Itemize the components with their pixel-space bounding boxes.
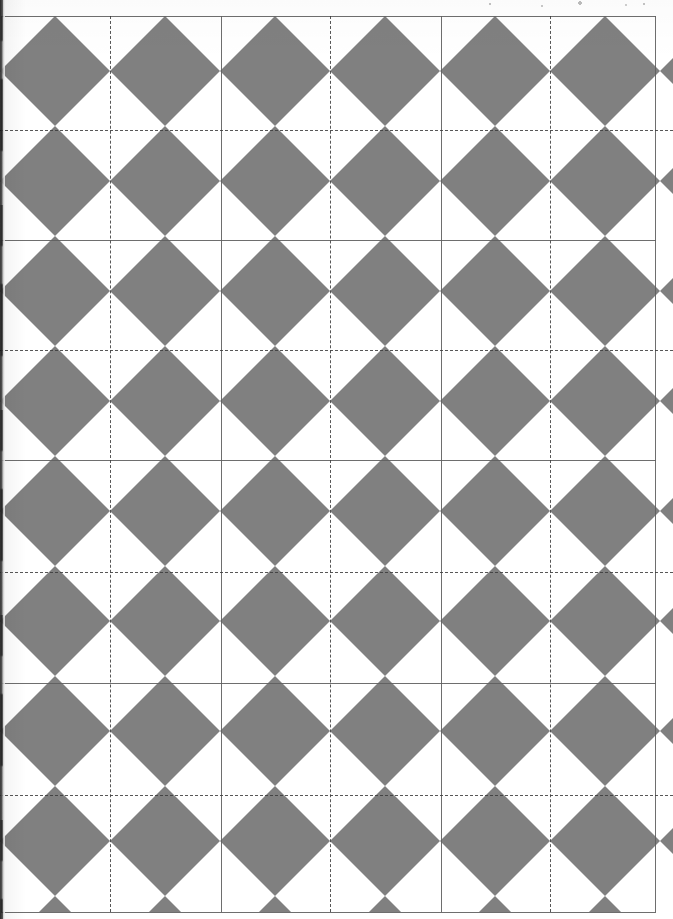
grid-solid-horizontal — [1, 912, 656, 913]
pattern-diamonds — [0, 16, 673, 912]
scan-speckle — [430, 0, 673, 12]
quilt-pattern-page — [0, 0, 673, 919]
diamond-tiling-svg — [0, 16, 673, 912]
diamond-pattern-area — [0, 16, 673, 912]
